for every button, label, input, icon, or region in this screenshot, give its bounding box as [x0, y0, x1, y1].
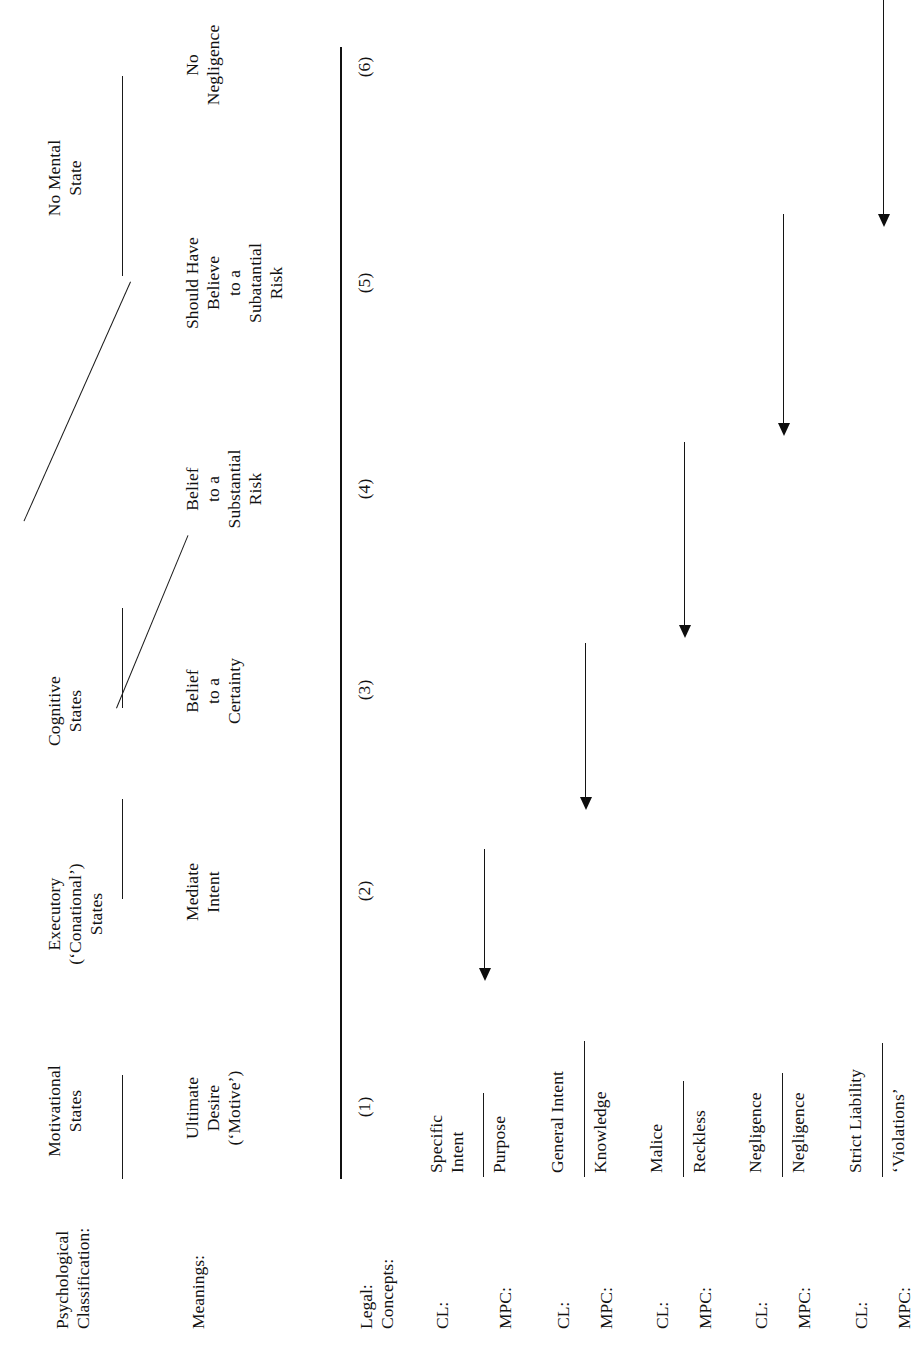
row-label-legal-concepts: Legal: Concepts: — [356, 1259, 398, 1329]
row-label-cl-4: CL: — [751, 1302, 772, 1329]
cl-value-negligence: Negligence — [745, 1092, 766, 1173]
row-label-cl-2: CL: — [553, 1302, 574, 1329]
column-number-6: (6) — [354, 37, 375, 97]
pair-rule-5 — [882, 1043, 883, 1177]
row-label-meanings: Meanings: — [188, 1255, 209, 1329]
row-label-cl-1: CL: — [432, 1302, 453, 1329]
arrow-shaft — [883, 0, 884, 218]
psych-group-cognitive: Cognitive States — [44, 611, 86, 811]
mpc-value-negligence: Negligence — [788, 1092, 809, 1173]
connector-no-mental-state-to-5 — [24, 282, 131, 522]
pair-rule-1 — [483, 1093, 484, 1177]
scope-arrow-5 — [878, 0, 890, 227]
scope-arrow-2 — [580, 643, 592, 810]
scope-arrow-1 — [479, 849, 491, 981]
psych-group-motivational: Motivational States — [44, 1006, 86, 1216]
meaning-col-3: Belief to a Certainty — [182, 591, 245, 791]
mpc-value-knowledge: Knowledge — [590, 1091, 611, 1173]
mens-rea-diagram: Psychological Classification: Meanings: … — [0, 0, 919, 1351]
meaning-col-4: Belief to a Substantial Risk — [182, 389, 266, 589]
column-number-2: (2) — [354, 861, 375, 921]
meaning-col-6: No Negligence — [182, 0, 224, 165]
pair-rule-4 — [782, 1073, 783, 1177]
row-label-mpc-4: MPC: — [794, 1287, 815, 1329]
column-number-1: (1) — [354, 1077, 375, 1137]
arrow-shaft — [585, 643, 586, 801]
connector-motivational — [122, 1075, 123, 1179]
mpc-value-purpose: Purpose — [489, 1116, 510, 1173]
pair-rule-3 — [683, 1081, 684, 1177]
row-label-mpc-3: MPC: — [695, 1287, 716, 1329]
cl-value-malice: Malice — [646, 1124, 667, 1173]
arrow-shaft — [684, 442, 685, 629]
mpc-value-violations: ‘Violations’ — [888, 1088, 909, 1173]
psych-group-executory: Executory (‘Conational’) States — [44, 799, 107, 1029]
pair-rule-2 — [584, 1041, 585, 1177]
mpc-value-reckless: Reckless — [689, 1110, 710, 1173]
scope-arrow-3 — [679, 442, 691, 638]
scope-arrow-4 — [778, 214, 790, 436]
connector-cognitive-to-4 — [116, 535, 188, 708]
meaning-col-2: Mediate Intent — [182, 792, 224, 992]
connector-executory — [122, 799, 123, 899]
row-label-mpc-5: MPC: — [894, 1287, 915, 1329]
arrow-shaft — [783, 214, 784, 427]
column-number-4: (4) — [354, 459, 375, 519]
row-label-mpc-1: MPC: — [495, 1287, 516, 1329]
row-label-cl-3: CL: — [652, 1302, 673, 1329]
column-number-5: (5) — [354, 253, 375, 313]
meaning-col-1: Ultimate Desire (‘Motive’) — [182, 1008, 245, 1208]
psych-group-no-mental-state: No Mental State — [44, 73, 86, 283]
cl-value-general-intent: General Intent — [547, 1071, 568, 1173]
cl-value-strict-liability: Strict Liability — [845, 1069, 866, 1173]
legal-concepts-axis-rule — [340, 47, 342, 1179]
row-label-cl-5: CL: — [851, 1302, 872, 1329]
row-label-mpc-2: MPC: — [596, 1287, 617, 1329]
rotated-figure-wrapper: Psychological Classification: Meanings: … — [0, 0, 919, 1351]
cl-value-specific-intent: Specific Intent — [426, 1115, 468, 1173]
meaning-col-5: Should Have Believe to a Subatantial Ris… — [182, 178, 287, 388]
connector-no-mental-state-to-6 — [122, 76, 123, 276]
row-label-psychological-classification: Psychological Classification: — [52, 1228, 94, 1329]
column-number-3: (3) — [354, 660, 375, 720]
arrow-shaft — [484, 849, 485, 972]
